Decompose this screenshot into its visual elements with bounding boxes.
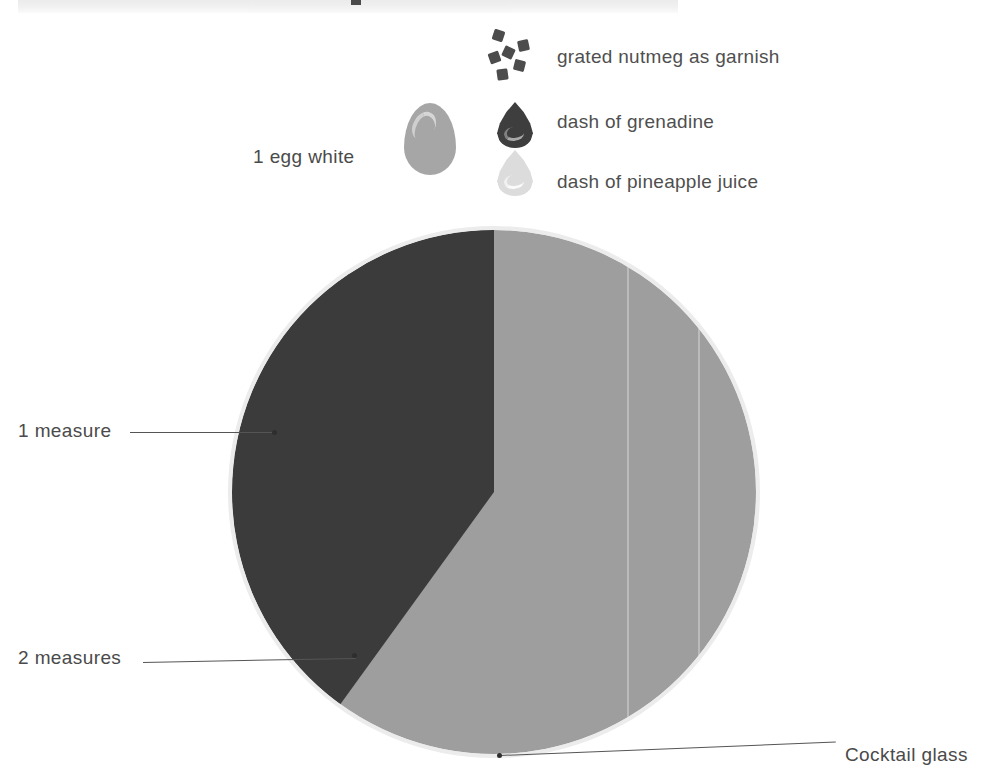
egg-white-label: 1 egg white	[253, 147, 355, 166]
pie-streak	[698, 230, 700, 754]
drop-body	[497, 102, 533, 148]
nutmeg-bit	[487, 50, 501, 64]
callout-label-2-measures: 2 measures	[18, 648, 121, 667]
nutmeg-scatter-icon	[487, 28, 543, 82]
legend-label-pineapple-juice: dash of pineapple juice	[557, 172, 758, 191]
pie-streak	[627, 230, 629, 754]
nutmeg-bit	[513, 59, 526, 72]
legend-label-nutmeg: grated nutmeg as garnish	[557, 47, 780, 66]
leader-dot-2-measures	[352, 653, 357, 658]
nutmeg-bit	[517, 39, 530, 52]
nutmeg-bit	[492, 29, 506, 43]
pineapple-juice-drop-icon	[497, 150, 533, 196]
leader-dot-1-measure	[272, 430, 277, 435]
egg-icon	[404, 103, 456, 175]
legend-label-grenadine: dash of grenadine	[557, 112, 714, 131]
scan-artifact-band	[18, 0, 678, 13]
drop-body	[497, 150, 533, 196]
callout-label-1-measure: 1 measure	[18, 421, 111, 440]
leader-dot-cocktail-glass	[497, 753, 502, 758]
grenadine-drop-icon	[497, 102, 533, 148]
nutmeg-bit	[501, 45, 516, 60]
pie-chart	[232, 230, 756, 754]
recipe-diagram-page: grated nutmeg as garnish dash of grenadi…	[0, 0, 989, 783]
leader-line-1-measure	[130, 432, 276, 433]
scan-artifact-mark	[351, 0, 361, 5]
egg-highlight	[407, 108, 441, 145]
nutmeg-bit	[496, 68, 508, 80]
callout-label-cocktail-glass: Cocktail glass	[845, 745, 968, 764]
